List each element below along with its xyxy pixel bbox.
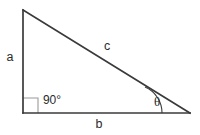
angle-label-90-degrees: 90°	[43, 93, 61, 107]
side-label-b: b	[96, 117, 103, 131]
side-label-c: c	[104, 39, 110, 53]
right-angle-marker-icon	[23, 98, 38, 113]
triangle-diagram-canvas: a b c 90° θ	[0, 0, 200, 135]
side-label-a: a	[7, 50, 14, 64]
angle-label-theta: θ	[154, 94, 160, 109]
right-triangle-figure: a b c 90° θ	[0, 0, 200, 135]
